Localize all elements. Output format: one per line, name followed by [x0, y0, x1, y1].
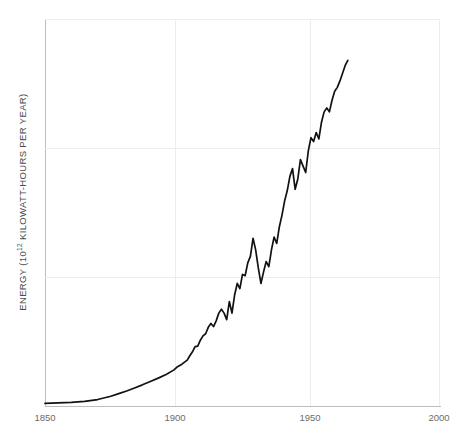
y-axis-label-prefix: ENERGY (10	[17, 251, 28, 311]
chart-figure: ENERGY (1012 KILOWATT-HOURS PER YEAR) 15…	[0, 0, 450, 431]
gridline-x-1950	[310, 19, 311, 406]
gridline-x-1900	[175, 19, 176, 406]
y-axis-label-suffix: KILOWATT-HOURS PER YEAR)	[17, 93, 28, 243]
plot-area	[45, 19, 440, 406]
y-axis-label: ENERGY (1012 KILOWATT-HOURS PER YEAR)	[16, 22, 28, 382]
gridline-y-10	[45, 148, 440, 149]
gridline-y-5	[45, 277, 440, 278]
gridline-y-15	[45, 19, 440, 20]
x-tick-label-1850: 1850	[15, 412, 75, 423]
x-tick-label-1950: 1950	[280, 412, 340, 423]
x-tick-label-1900: 1900	[145, 412, 205, 423]
y-axis-label-exponent: 12	[16, 243, 23, 251]
x-axis-line	[45, 406, 441, 407]
x-tick-label-2000: 2000	[409, 412, 450, 423]
gridline-x-2000	[439, 19, 440, 406]
